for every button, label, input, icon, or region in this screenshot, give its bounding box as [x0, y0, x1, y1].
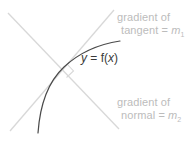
tangent-annotation-prefix: tangent =	[121, 24, 171, 36]
diagram-canvas: gradient of tangent = m1 gradient of nor…	[0, 0, 196, 141]
normal-gradient-symbol: m	[168, 109, 177, 121]
tangent-annotation-line2: tangent = m1	[117, 24, 185, 41]
normal-gradient-subscript: 2	[177, 116, 181, 123]
normal-gradient-annotation: gradient of normal = m2	[117, 96, 181, 126]
tangent-gradient-subscript: 1	[181, 31, 185, 38]
tangent-gradient-annotation: gradient of tangent = m1	[117, 11, 185, 41]
function-label-equals: = f(	[87, 51, 108, 65]
tangent-annotation-line1: gradient of	[117, 11, 185, 24]
normal-line	[8, 13, 119, 129]
normal-annotation-line2: normal = m2	[117, 109, 181, 126]
function-label-close: )	[114, 51, 118, 65]
normal-annotation-prefix: normal =	[121, 109, 168, 121]
normal-annotation-line1: gradient of	[117, 96, 181, 109]
tangent-gradient-symbol: m	[171, 24, 180, 36]
tangent-line	[10, 10, 114, 131]
function-label: y = f(x)	[81, 51, 118, 65]
